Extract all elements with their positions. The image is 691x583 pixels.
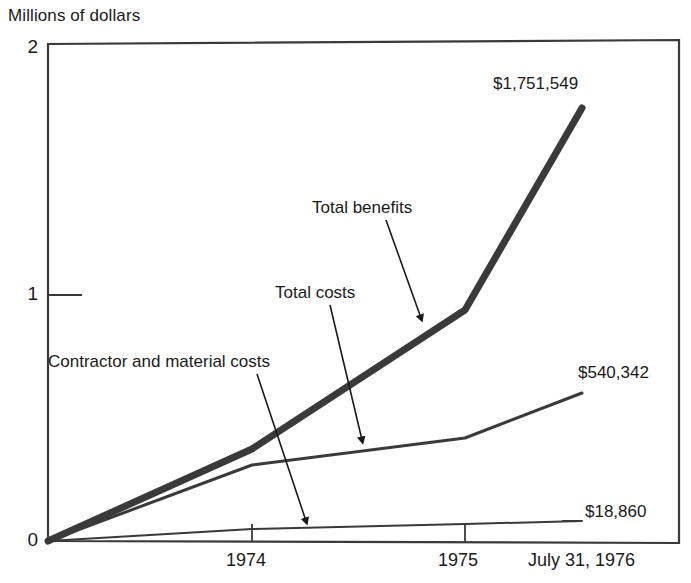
leader-arrow-total-costs xyxy=(330,305,362,440)
plot-area xyxy=(0,0,691,583)
plot-frame xyxy=(48,40,679,543)
series-line-total-costs xyxy=(48,393,582,541)
chart-figure: Millions of dollars 2 1 0 1974 1975 July… xyxy=(0,0,691,583)
leader-arrow-contractor-and-material-costs xyxy=(257,374,306,521)
series-line-contractor-and-material-costs xyxy=(48,521,582,541)
series-line-total-benefits xyxy=(48,108,582,541)
leader-arrow-total-benefits xyxy=(386,220,421,318)
